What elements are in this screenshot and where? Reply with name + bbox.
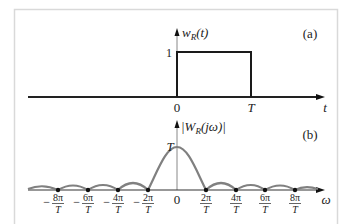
figure: wR(t) 1 0 T t (a) |WR(jω)| T [0, 0, 351, 224]
tick-pos4-den: T [233, 204, 240, 215]
tick-pos2-den: T [203, 204, 210, 215]
tick-neg8-den: T [55, 204, 62, 215]
panel-a-xlabel: t [323, 100, 327, 115]
panel-a-ylabel: wR(t) [182, 25, 208, 42]
panel-b-center-label: 0 [174, 192, 181, 207]
tick-neg6-num: 6π [83, 192, 93, 203]
tick-pos2-num: 2π [201, 192, 211, 203]
tick-pos6-num: 6π [260, 192, 270, 203]
panel-a-y-arrow-icon [175, 28, 180, 36]
tick-pos8-den: T [292, 204, 299, 215]
panel-a-level-label: 1 [166, 46, 172, 60]
tick-neg2-num: 2π [143, 192, 153, 203]
tick-pos6-den: T [262, 204, 269, 215]
tick-neg8-num: 8π [53, 192, 63, 203]
panel-a-tick-T: T [247, 100, 255, 115]
tick-neg8-sign: − [43, 195, 50, 209]
tick-neg2-den: T [145, 204, 152, 215]
panel-b-ylabel: |WR(jω)| [181, 119, 226, 136]
tick-labels: − 8π T − 6π T − 4π T − 2π T 2π T 4π [43, 192, 301, 215]
panel-a-tag: (a) [303, 26, 317, 41]
tick-pos8-num: 8π [290, 192, 300, 203]
tick-neg4-den: T [115, 204, 122, 215]
panel-b-y-arrow-icon [175, 120, 180, 128]
panel-b-tag: (b) [302, 127, 317, 142]
rect-pulse [177, 52, 251, 97]
tick-neg2-sign: − [133, 195, 140, 209]
tick-neg4-num: 4π [113, 192, 123, 203]
tick-neg6-sign: − [73, 195, 80, 209]
panel-b-peak-label: T [166, 139, 174, 154]
tick-pos4-num: 4π [231, 192, 241, 203]
panel-a: wR(t) 1 0 T t (a) [28, 25, 327, 115]
tick-neg4-sign: − [103, 195, 110, 209]
panel-a-tick-0: 0 [174, 100, 181, 115]
panel-b-xlabel: ω [321, 192, 330, 207]
tick-neg6-den: T [85, 204, 92, 215]
panel-b: |WR(jω)| T (b) 0 ω − 8π T − 6π T − 4π T … [28, 119, 331, 215]
